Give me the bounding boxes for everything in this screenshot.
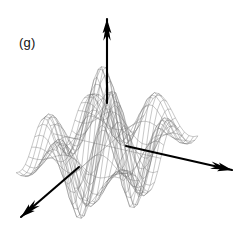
panel-label: (g) (19, 35, 36, 50)
plot-background (0, 0, 241, 232)
figure-panel: (g) (0, 0, 241, 232)
surface-plot-svg (0, 0, 241, 232)
